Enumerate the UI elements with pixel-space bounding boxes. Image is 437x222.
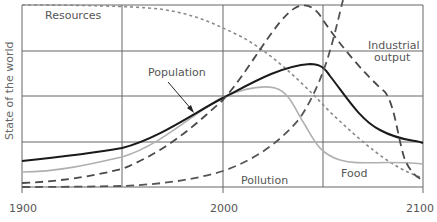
label-population: Population (148, 66, 206, 79)
population-arrow (168, 82, 194, 113)
label-resources: Resources (45, 9, 101, 22)
chart-plot-area (0, 0, 437, 222)
x-tick-2100: 2100 (406, 202, 434, 215)
label-food: Food (341, 167, 367, 180)
x-tick-2000: 2000 (210, 202, 238, 215)
label-industrial-line2: output (374, 51, 410, 64)
series-pollution (22, 0, 343, 187)
x-tick-1900: 1900 (9, 202, 37, 215)
label-pollution: Pollution (241, 174, 288, 187)
y-axis-label: State of the world (3, 41, 16, 140)
